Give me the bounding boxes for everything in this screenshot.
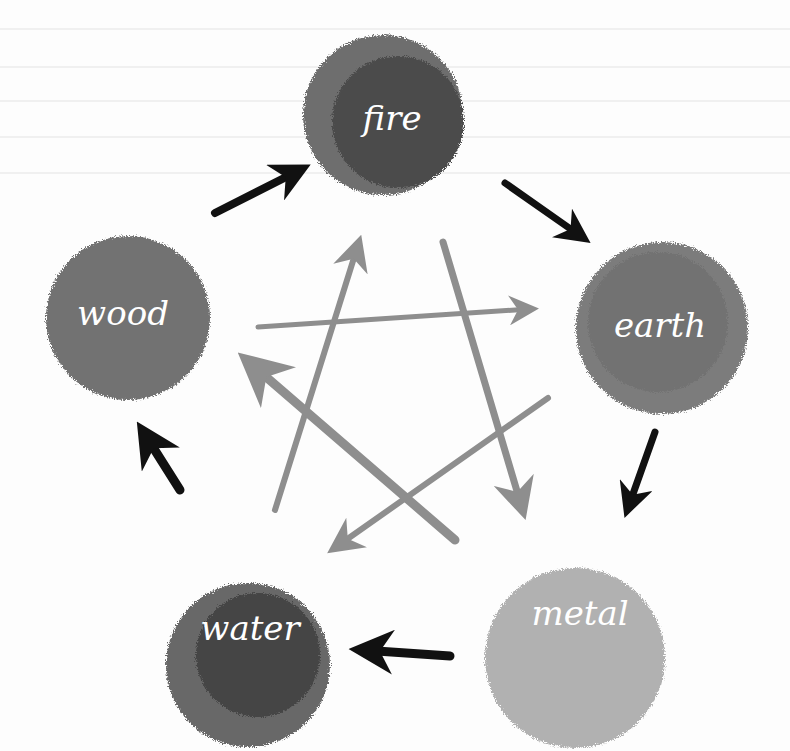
arrow-fire-to-metal	[443, 242, 522, 508]
node-earth: earth	[576, 242, 748, 414]
arrow-wood-to-fire	[215, 170, 300, 213]
label-earth: earth	[614, 305, 706, 345]
controlling-cycle-arrows	[250, 242, 548, 547]
label-fire: fire	[359, 98, 421, 138]
arrow-fire-to-earth	[505, 183, 582, 237]
arrow-earth-to-metal	[628, 432, 655, 508]
label-metal: metal	[531, 593, 628, 633]
node-water: water	[166, 583, 330, 747]
arrow-water-to-wood	[144, 433, 180, 490]
arrow-metal-to-water	[362, 650, 450, 656]
arrow-metal-to-wood	[250, 363, 455, 540]
arrow-water-to-fire	[275, 245, 358, 510]
label-water: water	[200, 608, 301, 648]
node-metal: metal	[485, 568, 665, 748]
arrow-wood-to-earth	[258, 309, 530, 327]
node-wood: wood	[46, 236, 210, 400]
five-elements-diagram: fire earth metal water wood	[0, 0, 790, 751]
label-wood: wood	[77, 293, 169, 333]
node-fire: fire	[303, 35, 464, 195]
